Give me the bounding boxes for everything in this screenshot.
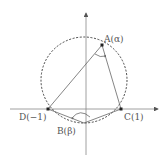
segment-DB — [48, 109, 84, 123]
diagram-canvas: A(α) D(−1) C(1) B(β) — [0, 0, 168, 157]
label-B: B(β) — [57, 126, 76, 136]
segment-BC — [84, 109, 121, 123]
label-C: C(1) — [124, 112, 144, 122]
label-A: A(α) — [103, 34, 124, 44]
point-C — [120, 108, 123, 111]
dashed-circle — [41, 37, 127, 123]
angle-arc-B — [72, 113, 90, 118]
label-D: D(−1) — [19, 112, 47, 122]
point-D — [47, 108, 50, 111]
segment-DA — [48, 45, 102, 109]
